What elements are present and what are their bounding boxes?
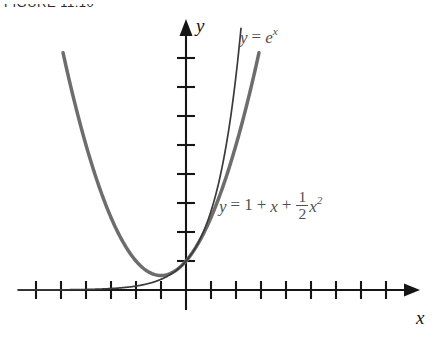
poly-frac-denominator: 2 <box>296 205 308 222</box>
poly-fraction: 12 <box>296 189 308 222</box>
poly-x: x <box>270 198 278 215</box>
graph-curves <box>0 0 437 354</box>
exp-exponent: x <box>273 25 278 37</box>
curve-label-exponential: y=ex <box>240 26 278 46</box>
poly-y: y <box>219 198 227 215</box>
poly-x-squared-base: x <box>309 198 317 215</box>
poly-one: 1 <box>244 195 253 214</box>
exp-y: y <box>240 29 248 46</box>
y-axis-label: y <box>196 16 204 35</box>
exp-equals: = <box>248 27 266 46</box>
poly-frac-numerator: 1 <box>296 189 308 205</box>
exp-base: e <box>265 29 273 46</box>
poly-plus-2: + <box>278 195 296 214</box>
poly-equals: = <box>227 195 245 214</box>
x-axis-label: x <box>416 308 424 327</box>
poly-x-squared-exponent: 2 <box>317 194 323 206</box>
poly-plus-1: + <box>253 195 271 214</box>
curve-label-polynomial: y=1+x+12x2 <box>219 190 322 223</box>
curve-parabola <box>63 53 259 276</box>
